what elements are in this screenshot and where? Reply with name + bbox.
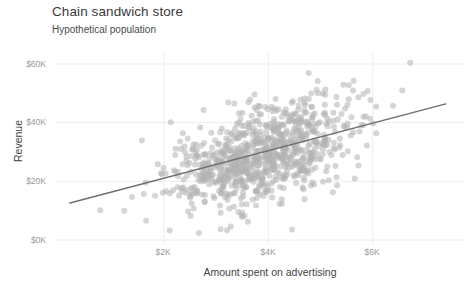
y-tick-label-60k: $60K (2, 59, 46, 69)
y-tick-label-0k: $0K (2, 235, 46, 245)
x-tick-label-2k: $2K (143, 247, 183, 257)
x-axis-title: Amount spent on advertising (120, 266, 420, 278)
scatter-plot (0, 0, 471, 300)
x-tick-label-4k: $4K (248, 247, 288, 257)
y-axis-title: Revenue (12, 101, 24, 181)
plot-canvas (0, 0, 471, 300)
y-tick-label-40k: $40K (2, 117, 46, 127)
x-tick-label-6k: $6K (352, 247, 392, 257)
y-tick-label-20k: $20K (2, 176, 46, 186)
chart-root: Chain sandwich store Hypothetical popula… (0, 0, 471, 300)
scatter-points (97, 60, 413, 236)
